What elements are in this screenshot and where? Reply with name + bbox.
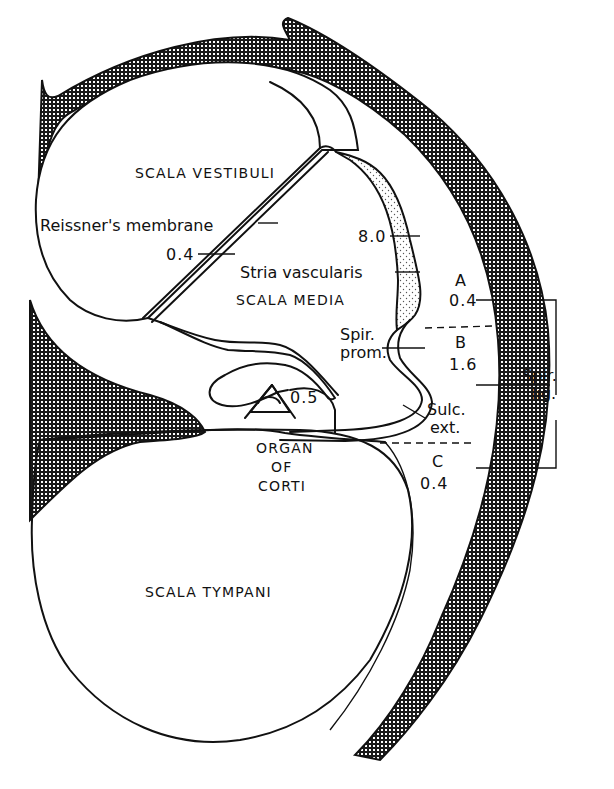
modiolus-bone [30, 300, 205, 520]
cochlear-duct-diagram: SCALA VESTIBULI SCALA MEDIA SCALA TYMPAN… [0, 0, 614, 789]
scala-vestibuli-label: SCALA VESTIBULI [135, 165, 275, 181]
organ-of-corti-label-2: OF [271, 459, 292, 475]
region-divider-ab [425, 326, 494, 328]
region-b-letter: B [455, 333, 466, 352]
spiral-ligament-label-1: Spir. [522, 366, 557, 385]
sulc-ext-leader [403, 405, 425, 418]
sulcus-externus-label-1: Sulc. [427, 400, 466, 419]
stria-vascularis-label: Stria vascularis [240, 263, 363, 282]
reissners-membrane-value: 0.4 [166, 245, 194, 264]
region-a-letter: A [455, 271, 466, 290]
lateral-st-boundary [330, 442, 413, 730]
stria-vascularis-value: 8.0 [358, 227, 386, 246]
organ-value: 0.5 [290, 388, 318, 407]
region-b-value: 1.6 [449, 355, 477, 374]
scala-media-label: SCALA MEDIA [236, 292, 345, 308]
reissners-membrane-label: Reissner's membrane [40, 216, 213, 235]
region-c-value: 0.4 [420, 474, 448, 493]
spiral-prominence-label-1: Spir. [340, 325, 375, 344]
sulcus-externus-label-2: ext. [430, 418, 460, 437]
region-c-letter: C [432, 452, 443, 471]
organ-of-corti-body [250, 385, 290, 412]
pillar-left [245, 385, 272, 418]
region-a-value: 0.4 [449, 291, 477, 310]
spiral-prominence-label-2: prom. [340, 343, 387, 362]
organ-of-corti-label-3: CORTI [258, 478, 306, 494]
spiral-ligament-label-2: lig. [532, 384, 556, 403]
scala-tympani-label: SCALA TYMPANI [145, 584, 272, 600]
organ-of-corti-label-1: ORGAN [256, 440, 314, 456]
